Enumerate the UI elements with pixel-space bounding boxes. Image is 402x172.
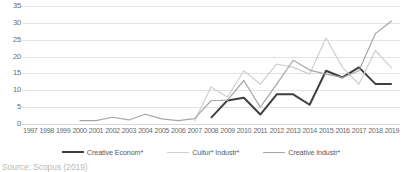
y-axis-tick: 5: [1, 103, 21, 111]
legend-label: Cultur* Industr*: [192, 148, 239, 157]
gridline: [22, 124, 400, 125]
y-axis-tick: 30: [1, 19, 21, 27]
x-axis-tick: 2005: [154, 126, 170, 138]
x-axis-tick: 2011: [252, 126, 268, 138]
series-lines: [22, 6, 400, 124]
legend-label: Creative Econom*: [87, 148, 143, 157]
y-axis-tick: 0: [1, 120, 21, 128]
source-caption: Source: Scopus (2019): [2, 162, 262, 172]
legend-label: Creative Industr*: [288, 148, 340, 157]
x-axis-tick: 2018: [367, 126, 383, 138]
x-axis-tick: 2016: [334, 126, 350, 138]
y-axis: 35302520151050: [0, 0, 21, 132]
x-axis-tick: 2014: [301, 126, 317, 138]
legend-item[interactable]: Creative Econom*: [62, 148, 143, 157]
legend-swatch-icon: [167, 152, 189, 153]
x-axis-tick: 2001: [88, 126, 104, 138]
x-axis-tick: 2009: [219, 126, 235, 138]
x-axis-tick: 2000: [71, 126, 87, 138]
chart-figure: 35302520151050 1997199819992000200120022…: [0, 0, 402, 172]
x-axis-tick: 2006: [170, 126, 186, 138]
x-axis-tick: 2017: [351, 126, 367, 138]
y-axis-tick: 15: [1, 69, 21, 77]
x-axis-tick: 2008: [203, 126, 219, 138]
x-axis-tick: 2015: [318, 126, 334, 138]
x-axis-tick: 2019: [384, 126, 400, 138]
x-axis-tick: 2002: [104, 126, 120, 138]
x-axis-tick: 1997: [22, 126, 38, 138]
y-axis-tick: 35: [1, 2, 21, 10]
chart-plot-area: 35302520151050: [0, 0, 402, 132]
y-axis-tick: 25: [1, 36, 21, 44]
series-line: [211, 67, 392, 118]
x-axis-tick: 2007: [186, 126, 202, 138]
chart-legend: Creative Econom*Cultur* Industr*Creative…: [0, 145, 402, 159]
x-axis-tick: 2004: [137, 126, 153, 138]
legend-item[interactable]: Cultur* Industr*: [167, 148, 239, 157]
x-axis-tick: 1999: [55, 126, 71, 138]
legend-swatch-icon: [62, 151, 84, 153]
x-axis-tick: 2012: [269, 126, 285, 138]
x-axis-tick: 2010: [236, 126, 252, 138]
x-axis-tick: 1998: [38, 126, 54, 138]
x-axis-tick: 2013: [285, 126, 301, 138]
y-axis-tick: 10: [1, 86, 21, 94]
plot-canvas: [22, 6, 400, 124]
y-axis-tick: 20: [1, 53, 21, 61]
x-axis-tick: 2003: [121, 126, 137, 138]
legend-swatch-icon: [263, 152, 285, 153]
x-axis: 1997199819992000200120022003200420052006…: [22, 126, 400, 138]
legend-item[interactable]: Creative Industr*: [263, 148, 340, 157]
series-line: [195, 38, 392, 121]
